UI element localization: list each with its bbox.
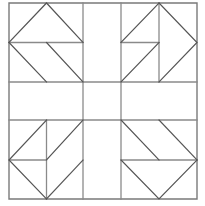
- quilt-block-diagram: [0, 0, 205, 206]
- canvas-background: [0, 0, 205, 206]
